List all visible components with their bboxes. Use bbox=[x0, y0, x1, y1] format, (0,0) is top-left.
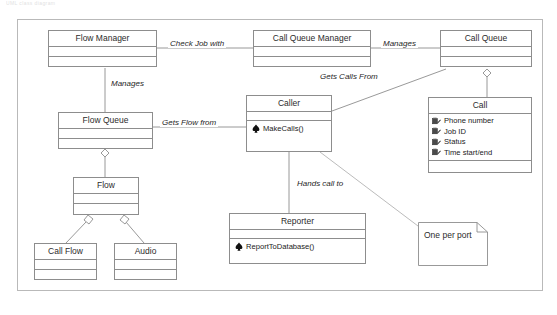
class-attributes-flow bbox=[74, 193, 138, 203]
note-one-per-port[interactable]: One per port bbox=[418, 222, 488, 266]
attribute-row-status: Status bbox=[432, 137, 528, 147]
class-attributes-call: Phone number Job ID bbox=[429, 113, 531, 160]
edge-label-manages-call-queue: Manages bbox=[381, 39, 418, 48]
class-operations-audio bbox=[115, 269, 176, 281]
edge-label-manages-flow-queue: Manages bbox=[109, 79, 146, 88]
class-operations-call-queue bbox=[441, 56, 531, 68]
class-operations-flow-queue bbox=[59, 138, 152, 150]
class-name-call-queue: Call Queue bbox=[441, 31, 531, 46]
operation-row-makecalls: MakeCalls() bbox=[252, 124, 328, 134]
attribute-field-icon bbox=[432, 148, 441, 156]
edge-label-check-job-with: Check Job with bbox=[168, 39, 226, 48]
attribute-field-icon bbox=[432, 117, 441, 125]
class-name-flow-manager: Flow Manager bbox=[49, 31, 156, 46]
operation-method-icon bbox=[235, 242, 243, 251]
aggregation-diamond-audio bbox=[120, 215, 129, 224]
class-name-audio: Audio bbox=[115, 244, 176, 259]
class-attributes-flow-manager bbox=[49, 46, 156, 56]
attribute-label-time-start-end: Time start/end bbox=[444, 148, 492, 158]
note-text-one-per-port: One per port bbox=[424, 230, 472, 240]
attribute-row-job-id: Job ID bbox=[432, 127, 528, 137]
class-operations-reporter: ReportToDatabase() bbox=[230, 238, 365, 256]
aggregation-diamond-call-queue bbox=[483, 69, 491, 77]
operation-method-icon bbox=[252, 124, 260, 133]
class-box-flow-queue[interactable]: Flow Queue bbox=[58, 112, 153, 149]
operation-label-reporttodatabase: ReportToDatabase() bbox=[246, 242, 314, 252]
edge-flow-has-audio bbox=[126, 222, 144, 243]
attribute-row-time-start-end: Time start/end bbox=[432, 148, 528, 158]
class-box-audio[interactable]: Audio bbox=[114, 243, 177, 280]
class-box-call-queue-manager[interactable]: Call Queue Manager bbox=[253, 30, 371, 67]
class-attributes-call-flow bbox=[35, 259, 96, 269]
attribute-label-phone-number: Phone number bbox=[444, 116, 494, 126]
class-box-flow-manager[interactable]: Flow Manager bbox=[48, 30, 157, 67]
attribute-field-icon bbox=[432, 127, 441, 135]
class-name-call: Call bbox=[429, 98, 531, 113]
edge-label-gets-calls-from: Gets Calls From bbox=[318, 72, 380, 81]
attribute-label-status: Status bbox=[444, 137, 466, 147]
class-box-caller[interactable]: Caller MakeCalls() bbox=[246, 95, 332, 152]
class-attributes-reporter bbox=[230, 229, 365, 238]
class-box-call-flow[interactable]: Call Flow bbox=[34, 243, 97, 280]
attribute-row-phone-number: Phone number bbox=[432, 116, 528, 126]
class-name-flow: Flow bbox=[74, 178, 138, 193]
class-operations-flow-manager bbox=[49, 56, 156, 68]
aggregation-diamond-flow-queue bbox=[101, 149, 109, 157]
edge-label-hands-call-to: Hands call to bbox=[295, 179, 345, 188]
class-name-flow-queue: Flow Queue bbox=[59, 113, 152, 128]
class-operations-call-queue-manager bbox=[254, 56, 370, 68]
class-operations-call-flow bbox=[35, 269, 96, 281]
class-name-call-flow: Call Flow bbox=[35, 244, 96, 259]
class-attributes-call-queue bbox=[441, 46, 531, 56]
attribute-field-icon bbox=[432, 138, 441, 146]
class-box-call-queue[interactable]: Call Queue bbox=[440, 30, 532, 67]
edge-flow-has-call-flow bbox=[66, 222, 86, 243]
class-operations-caller: MakeCalls() bbox=[247, 120, 331, 138]
class-box-reporter[interactable]: Reporter ReportToDatabase() bbox=[229, 213, 366, 264]
class-attributes-caller bbox=[247, 111, 331, 120]
class-attributes-flow-queue bbox=[59, 128, 152, 138]
class-box-flow[interactable]: Flow bbox=[73, 177, 139, 215]
class-attributes-call-queue-manager bbox=[254, 46, 370, 56]
attribute-label-job-id: Job ID bbox=[444, 127, 466, 137]
class-attributes-audio bbox=[115, 259, 176, 269]
class-name-reporter: Reporter bbox=[230, 214, 365, 229]
edge-label-gets-flow-from: Gets Flow from bbox=[160, 118, 218, 127]
operation-row-reporttodatabase: ReportToDatabase() bbox=[235, 242, 362, 252]
note-shape bbox=[418, 222, 488, 266]
class-operations-flow bbox=[74, 203, 138, 215]
operation-label-makecalls: MakeCalls() bbox=[263, 124, 304, 134]
class-name-call-queue-manager: Call Queue Manager bbox=[254, 31, 370, 46]
class-box-call[interactable]: Call Phone number bbox=[428, 97, 532, 173]
class-name-caller: Caller bbox=[247, 96, 331, 111]
class-operations-call bbox=[429, 160, 531, 172]
